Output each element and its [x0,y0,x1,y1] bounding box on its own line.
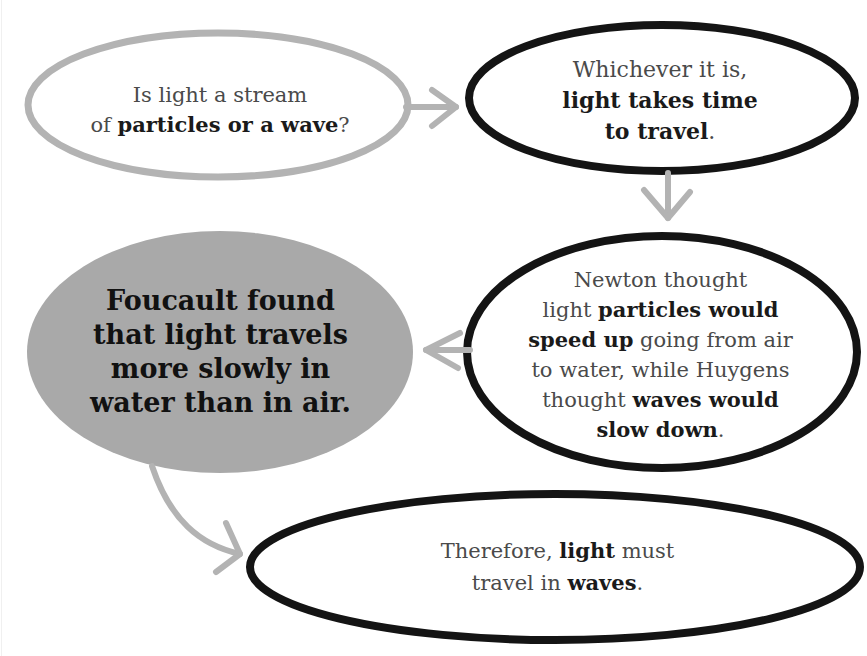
bold-text: particles or a wave [117,112,338,137]
bold-text: slow down [597,417,718,442]
text: thought [542,388,632,412]
arrow-curved-icon [152,466,240,572]
node-theories-line6: slow down. [528,415,793,445]
bold-text: waves [567,570,636,595]
node-question: Is light a stream of particles or a wave… [40,40,400,180]
node-foucault-line3: more slowly in [90,352,351,386]
node-question-line1: Is light a stream [90,80,349,110]
node-theories-line2: light particles would [528,295,793,325]
arrow-down-icon [644,173,690,218]
arrow-left-icon [426,333,470,368]
node-time-line3: to travel. [562,116,757,147]
node-time: Whichever it is, light takes time to tra… [470,25,850,175]
node-foucault: Foucault found that light travels more s… [28,232,413,472]
node-conclusion-line2: travel in waves. [441,567,675,599]
text: light [543,298,599,322]
node-question-line2: of particles or a wave? [90,110,349,140]
bold-text: particles would [598,297,778,322]
node-theories: Newton thought light particles would spe… [468,240,853,470]
bold-text: waves would [632,387,778,412]
bold-text: speed up [528,327,633,352]
node-foucault-line4: water than in air. [90,386,351,420]
text: . [637,571,644,595]
node-time-line2: light takes time [562,85,757,116]
text: ? [338,113,349,137]
node-theories-line3: speed up going from air [528,325,793,355]
node-conclusion: Therefore, light must travel in waves. [255,492,860,642]
text: . [718,418,725,442]
node-time-line1: Whichever it is, [562,54,757,85]
text: Therefore, [441,539,560,563]
bold-text: light takes time [562,87,757,113]
node-conclusion-line1: Therefore, light must [441,535,675,567]
text: . [708,119,715,144]
text: going from air [633,328,792,352]
text: travel in [472,571,568,595]
node-foucault-line2: that light travels [90,318,351,352]
node-foucault-line1: Foucault found [90,284,351,318]
arrow-right-icon [406,90,456,126]
text: must [615,539,674,563]
text: of [90,113,117,137]
bold-text: light [559,538,615,563]
node-theories-line5: thought waves would [528,385,793,415]
node-theories-line4: to water, while Huygens [528,355,793,385]
bold-text: to travel [605,118,709,144]
node-theories-line1: Newton thought [528,265,793,295]
